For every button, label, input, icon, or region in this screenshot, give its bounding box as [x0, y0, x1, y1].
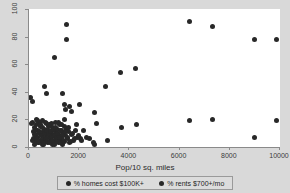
- data-point: [274, 118, 279, 123]
- data-point: [52, 55, 57, 60]
- data-point: [119, 125, 124, 130]
- legend-marker-icon: [159, 181, 164, 186]
- data-point: [44, 91, 49, 96]
- data-point: [70, 131, 75, 136]
- x-tick-label: 2000: [70, 152, 86, 159]
- data-point: [60, 91, 65, 96]
- chart-legend: % homes cost $100K+ % rents $700+/mo: [57, 176, 233, 190]
- x-tick-mark: [229, 147, 230, 150]
- x-axis-title: Pop/10 sq. miles: [0, 163, 290, 172]
- x-tick-label: 4000: [121, 152, 137, 159]
- y-tick-label: 20: [11, 109, 18, 129]
- data-point: [274, 37, 279, 42]
- data-points-layer: [29, 9, 280, 147]
- data-point: [64, 22, 69, 27]
- data-point: [29, 121, 34, 126]
- legend-label-homes: % homes cost $100K+: [74, 180, 144, 187]
- data-point: [118, 70, 123, 75]
- data-point: [210, 24, 215, 29]
- x-tick-label: 6000: [171, 152, 187, 159]
- legend-label-rents: % rents $700+/mo: [167, 180, 224, 187]
- y-tick-mark: [25, 64, 28, 65]
- y-tick-label: 80: [11, 26, 18, 46]
- y-tick-mark: [25, 119, 28, 120]
- y-tick-mark: [25, 37, 28, 38]
- x-tick-mark: [78, 147, 79, 150]
- legend-item-rents: % rents $700+/mo: [159, 180, 224, 187]
- data-point: [64, 37, 69, 42]
- data-point: [94, 121, 99, 126]
- plot-area: [28, 9, 280, 148]
- data-point: [252, 135, 257, 140]
- data-point: [133, 66, 138, 71]
- legend-marker-icon: [66, 181, 71, 186]
- data-point: [134, 122, 139, 127]
- data-point: [62, 102, 67, 107]
- x-tick-label: 0: [26, 152, 30, 159]
- y-tick-label: 100: [11, 0, 18, 19]
- data-point: [210, 117, 215, 122]
- data-point: [77, 102, 82, 107]
- data-point: [92, 142, 97, 147]
- data-point: [105, 138, 110, 143]
- x-tick-mark: [28, 147, 29, 150]
- x-tick-label: 10000: [269, 152, 288, 159]
- data-point: [74, 122, 79, 127]
- scatter-plot-figure: 020406080100 0200040006000800010000 Pop/…: [0, 0, 290, 193]
- data-point: [81, 128, 86, 133]
- y-tick-label: 60: [11, 54, 18, 74]
- y-tick-mark: [25, 9, 28, 10]
- data-point: [187, 118, 192, 123]
- data-point: [42, 84, 47, 89]
- y-tick-label: 0: [11, 137, 18, 157]
- x-tick-mark: [179, 147, 180, 150]
- data-point: [103, 84, 108, 89]
- x-tick-label: 8000: [221, 152, 237, 159]
- data-point: [62, 117, 67, 122]
- y-tick-label: 40: [11, 81, 18, 101]
- data-point: [79, 138, 84, 143]
- data-point: [69, 109, 74, 114]
- y-tick-mark: [25, 92, 28, 93]
- x-tick-mark: [279, 147, 280, 150]
- data-point: [252, 37, 257, 42]
- data-point: [92, 110, 97, 115]
- data-point: [187, 19, 192, 24]
- data-point: [30, 99, 35, 104]
- x-tick-mark: [128, 147, 129, 150]
- legend-item-homes: % homes cost $100K+: [66, 180, 144, 187]
